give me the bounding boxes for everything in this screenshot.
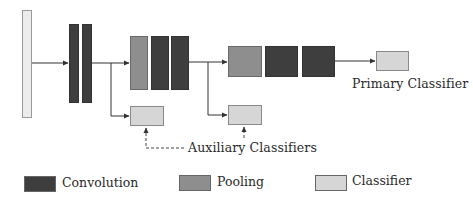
legend-swatch-pooling <box>179 175 211 191</box>
auxiliary-classifiers-label: Auxiliary Classifiers <box>188 140 317 155</box>
auxiliary-classifier-2 <box>228 105 262 125</box>
dashed-pointer-aux1 <box>146 128 184 148</box>
input-layer <box>22 10 32 118</box>
pooling-layer <box>130 36 148 90</box>
conv-layer <box>82 24 92 103</box>
conv-layer <box>151 36 169 90</box>
primary-classifier-label: Primary Classifier <box>352 76 468 91</box>
arrow-aux2 <box>208 62 227 115</box>
conv-layer <box>171 36 189 90</box>
pooling-layer <box>228 46 262 77</box>
arrow-aux1 <box>111 63 129 116</box>
legend-swatch-classifier <box>315 175 347 191</box>
legend-label-classifier: Classifier <box>352 173 412 188</box>
conv-layer <box>69 24 79 103</box>
conv-layer <box>265 46 298 77</box>
conv-layer <box>302 46 335 77</box>
legend-swatch-convolution <box>24 176 56 192</box>
legend-label-pooling: Pooling <box>217 174 264 189</box>
auxiliary-classifier-1 <box>130 106 164 126</box>
legend-label-convolution: Convolution <box>62 175 138 190</box>
architecture-diagram: Primary Classifier Auxiliary Classifiers… <box>0 0 473 201</box>
primary-classifier <box>376 51 409 71</box>
